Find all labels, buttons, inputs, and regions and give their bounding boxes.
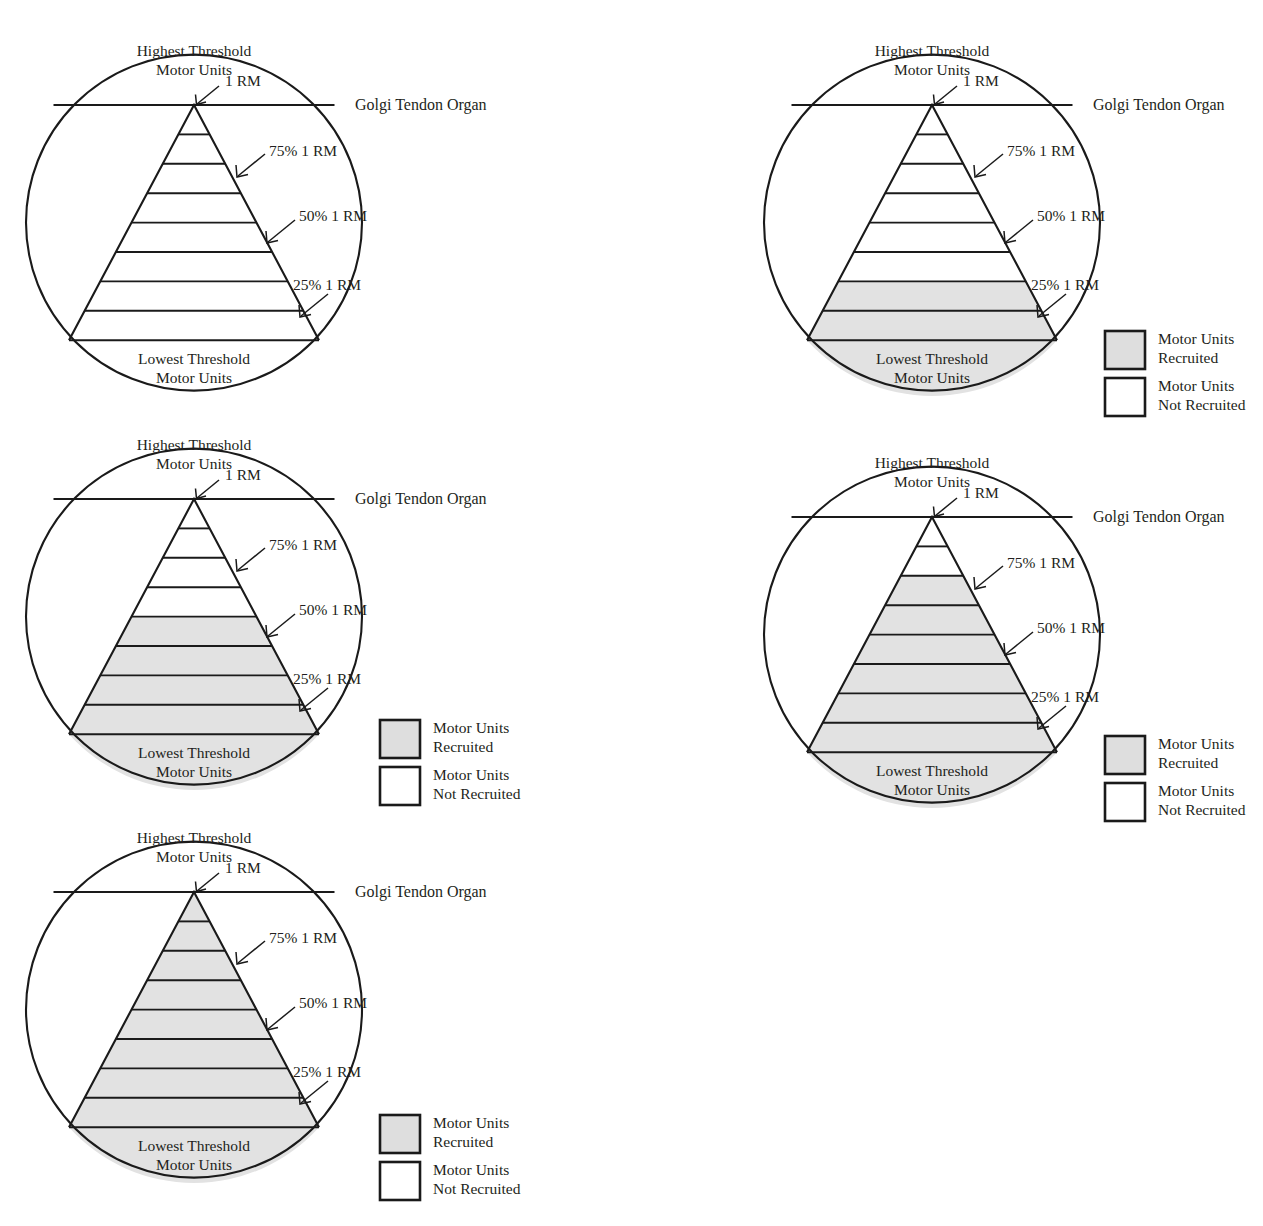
legend-label-not-recruited-1: Motor Units [1158,377,1234,394]
band-5 [116,223,272,252]
seventyfive-rm-annotation: 75% 1 RM [974,142,1075,177]
label-seventyfive-rm: 75% 1 RM [269,142,337,159]
label-twentyfive-rm: 25% 1 RM [1031,688,1099,705]
panel-5-one-rm: 1 RM 75% 1 RM 50% 1 RM 25% 1 RM Golgi Te… [10,793,550,1213]
label-twentyfive-rm: 25% 1 RM [293,1063,361,1080]
legend-swatch-not-recruited [380,1162,420,1200]
legend-swatch-recruited [380,1115,420,1153]
label-twentyfive-rm: 25% 1 RM [1031,276,1099,293]
label-twentyfive-rm: 25% 1 RM [293,670,361,687]
legend-label-not-recruited-1: Motor Units [1158,782,1234,799]
fifty-rm-annotation: 50% 1 RM [266,601,367,637]
band-2 [163,921,226,950]
band-4 [132,193,257,222]
legend-swatch-recruited [1105,331,1145,369]
label-lowest-threshold-2: Motor Units [156,1156,232,1173]
band-2 [901,134,964,163]
legend-label-not-recruited-2: Not Recruited [1158,396,1246,413]
band-6 [838,252,1026,281]
band-2 [163,528,226,557]
legend-swatch-not-recruited [1105,783,1145,821]
panel-1-rest: 1 RM 75% 1 RM 50% 1 RM 25% 1 RM Golgi Te… [10,6,550,406]
label-fifty-rm: 50% 1 RM [299,601,367,618]
band-2 [901,546,964,575]
label-lowest-threshold-1: Lowest Threshold [138,1137,250,1154]
band-8-bottom [69,311,319,340]
seventyfive-rm-annotation: 75% 1 RM [236,929,337,964]
label-golgi-tendon-organ: Golgi Tendon Organ [355,490,487,508]
band-1-top [178,105,209,134]
band-8-bottom [69,705,319,734]
band-4 [870,605,995,634]
fifty-rm-annotation: 50% 1 RM [266,994,367,1030]
legend: Motor Units Recruited Motor Units Not Re… [1105,330,1246,416]
band-8-bottom [807,311,1057,340]
label-lowest-threshold-1: Lowest Threshold [138,350,250,367]
label-highest-threshold-1: Highest Threshold [137,42,252,59]
label-seventyfive-rm: 75% 1 RM [269,929,337,946]
band-8-bottom [807,723,1057,752]
band-5 [116,1010,272,1039]
label-lowest-threshold-2: Motor Units [894,369,970,386]
label-lowest-threshold-1: Lowest Threshold [876,762,988,779]
label-fifty-rm: 50% 1 RM [1037,619,1105,636]
band-6 [100,646,288,675]
panel-4-seventyfive-percent: 1 RM 75% 1 RM 50% 1 RM 25% 1 RM Golgi Te… [748,418,1263,818]
label-highest-threshold-2: Motor Units [156,848,232,865]
legend-label-recruited-1: Motor Units [1158,735,1234,752]
band-4 [132,587,257,616]
band-7 [85,675,304,704]
label-golgi-tendon-organ: Golgi Tendon Organ [355,883,487,901]
fifty-rm-annotation: 50% 1 RM [1004,207,1105,243]
legend-swatch-recruited [380,720,420,758]
band-1-top [178,892,209,921]
panel-3-fifty-percent: 1 RM 75% 1 RM 50% 1 RM 25% 1 RM Golgi Te… [10,400,550,810]
label-highest-threshold-2: Motor Units [894,473,970,490]
label-highest-threshold-2: Motor Units [156,455,232,472]
label-fifty-rm: 50% 1 RM [299,994,367,1011]
label-highest-threshold-2: Motor Units [894,61,970,78]
label-highest-threshold-1: Highest Threshold [137,829,252,846]
label-lowest-threshold-2: Motor Units [156,763,232,780]
legend-label-recruited-2: Recruited [433,1133,494,1150]
legend-label-not-recruited-2: Not Recruited [433,1180,521,1197]
legend-label-recruited-1: Motor Units [433,719,509,736]
label-golgi-tendon-organ: Golgi Tendon Organ [1093,508,1225,526]
label-highest-threshold-2: Motor Units [156,61,232,78]
seventyfive-rm-annotation: 75% 1 RM [236,142,337,177]
label-highest-threshold-1: Highest Threshold [875,454,990,471]
label-golgi-tendon-organ: Golgi Tendon Organ [1093,96,1225,114]
seventyfive-rm-annotation: 75% 1 RM [236,536,337,571]
label-fifty-rm: 50% 1 RM [299,207,367,224]
label-highest-threshold-1: Highest Threshold [137,436,252,453]
band-1-top [916,105,947,134]
band-6 [838,664,1026,693]
label-lowest-threshold-1: Lowest Threshold [138,744,250,761]
band-6 [100,1039,288,1068]
label-twentyfive-rm: 25% 1 RM [293,276,361,293]
label-lowest-threshold-2: Motor Units [156,369,232,386]
band-5 [854,223,1010,252]
label-lowest-threshold-2: Motor Units [894,781,970,798]
seventyfive-rm-annotation: 75% 1 RM [974,554,1075,589]
band-7 [823,693,1042,722]
fifty-rm-annotation: 50% 1 RM [266,207,367,243]
band-2 [163,134,226,163]
label-fifty-rm: 50% 1 RM [1037,207,1105,224]
legend-label-recruited-2: Recruited [1158,349,1219,366]
legend-swatch-not-recruited [1105,378,1145,416]
band-1-top [178,499,209,528]
band-7 [85,281,304,310]
legend-label-not-recruited-2: Not Recruited [1158,801,1246,818]
legend-label-recruited-2: Recruited [1158,754,1219,771]
legend-label-not-recruited-1: Motor Units [433,766,509,783]
fifty-rm-annotation: 50% 1 RM [1004,619,1105,655]
legend-swatch-recruited [1105,736,1145,774]
band-8-bottom [69,1098,319,1127]
panel-2-graphic: 1 RM 75% 1 RM 50% 1 RM 25% 1 RM Golgi Te… [748,6,1263,406]
panel-4-graphic: 1 RM 75% 1 RM 50% 1 RM 25% 1 RM Golgi Te… [748,418,1263,818]
label-seventyfive-rm: 75% 1 RM [1007,554,1075,571]
legend-label-recruited-1: Motor Units [433,1114,509,1131]
label-seventyfive-rm: 75% 1 RM [1007,142,1075,159]
band-4 [132,980,257,1009]
